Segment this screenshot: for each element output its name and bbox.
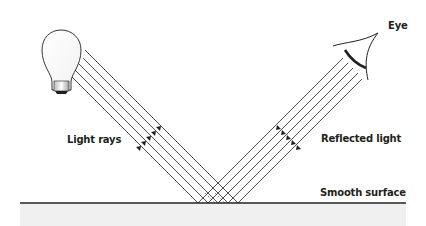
reflected-arrowheads	[276, 125, 301, 150]
incident-ray-1	[85, 50, 238, 203]
arrow-up-icon	[281, 130, 286, 135]
reflection-diagram: Eye Light rays Reflected light Smooth su…	[0, 0, 426, 226]
arrow-up-icon	[286, 135, 291, 140]
arrow-up-icon	[296, 145, 301, 150]
arrow-down-icon	[151, 131, 156, 136]
incident-ray-2	[83, 58, 228, 203]
arrow-down-icon	[141, 141, 146, 146]
smooth-surface	[20, 203, 406, 226]
reflected-ray-1	[198, 58, 343, 203]
eye-label: Eye	[388, 20, 408, 31]
light-bulb-icon	[42, 30, 81, 94]
surface-fill	[20, 204, 406, 226]
light-rays-label: Light rays	[67, 134, 121, 145]
reflected-light-label: Reflected light	[321, 133, 401, 144]
eye-icon	[333, 33, 378, 80]
arrow-down-icon	[156, 126, 161, 131]
arrow-down-icon	[136, 146, 141, 151]
arrow-up-icon	[276, 125, 281, 130]
arrow-up-icon	[291, 140, 296, 145]
reflected-rays	[198, 58, 362, 203]
incident-arrowheads	[136, 126, 161, 151]
smooth-surface-label: Smooth surface	[320, 187, 406, 198]
reflection-crossings	[205, 193, 225, 203]
arrow-down-icon	[146, 136, 151, 141]
incident-rays	[72, 50, 238, 203]
